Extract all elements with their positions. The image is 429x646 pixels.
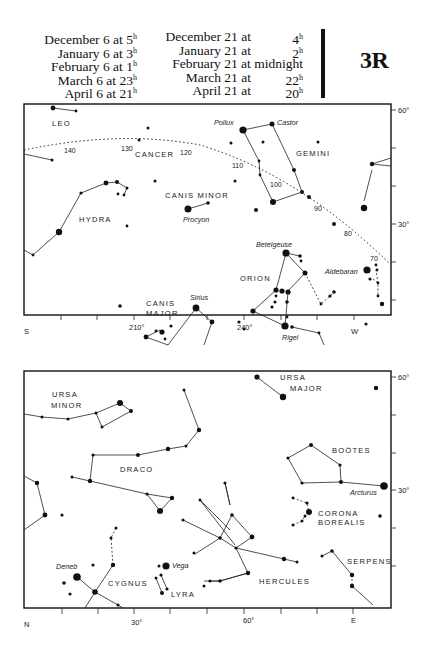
azimuth-ticks xyxy=(61,315,354,320)
time-row: February 6 at 1h xyxy=(0,57,137,71)
azimuth-label: 210° xyxy=(129,323,145,332)
svg-text:110: 110 xyxy=(232,162,243,169)
constellation-gemini: GEMINI xyxy=(296,149,330,158)
altitude-label: 30° xyxy=(398,220,409,229)
chart-frame xyxy=(24,104,391,315)
constellation-hercules: HERCULES xyxy=(259,577,310,586)
constellation-cygnus: CYGNUS xyxy=(108,579,148,588)
orion-arm xyxy=(305,273,334,304)
time-row: January 21 at2h xyxy=(160,44,303,58)
constellation-draco: DRACO xyxy=(120,465,153,474)
svg-text:120: 120 xyxy=(180,149,192,156)
azimuth-label: 240° xyxy=(237,323,253,332)
star-procyon: Procyon xyxy=(183,215,209,224)
time-row: April 21 at20h xyxy=(160,84,303,98)
constellation-leo: LEO xyxy=(52,119,71,128)
north-sky-chart: N E 30° 60° 60° 30° xyxy=(0,365,429,646)
azimuth-label: 30° xyxy=(131,618,142,627)
time-row: February 21 at midnight xyxy=(160,57,303,71)
star-sirius: Sirius xyxy=(190,293,208,302)
constellation-lyra: LYRA xyxy=(171,590,195,599)
time-row: March 6 at 23h xyxy=(0,71,137,85)
constellation-hydra: HYDRA xyxy=(79,215,112,224)
altitude-ticks xyxy=(391,377,396,566)
constellation-bootes: BOÖTES xyxy=(332,446,371,455)
direction-north: N xyxy=(24,620,29,629)
constellation-ursa-major: URSA xyxy=(280,373,306,382)
altitude-label: 60° xyxy=(398,106,409,115)
svg-text:80: 80 xyxy=(344,230,352,237)
altitude-label: 30° xyxy=(398,486,409,495)
svg-text:130: 130 xyxy=(121,145,133,152)
constellation-orion: ORION xyxy=(240,274,271,283)
svg-text:70: 70 xyxy=(370,255,378,262)
constellation-ursa-major: MAJOR xyxy=(290,384,323,393)
star-castor: Castor xyxy=(277,118,299,127)
direction-east: E xyxy=(351,616,356,625)
constellation-canis-minor: CANIS MINOR xyxy=(165,191,229,200)
constellation-corona-borealis: BOREALIS xyxy=(318,518,366,527)
azimuth-ticks xyxy=(62,608,353,614)
altitude-ticks xyxy=(391,110,396,300)
azimuth-label: 60° xyxy=(243,616,254,625)
direction-south: S xyxy=(24,327,29,336)
plate-id: 3R xyxy=(360,47,388,74)
star-aldebaran: Aldebaran xyxy=(324,267,358,276)
star-pollux: Pollux xyxy=(214,118,234,127)
cygnus-dash xyxy=(111,528,116,565)
time-row: April 6 at 21h xyxy=(0,84,137,98)
stars xyxy=(35,374,388,606)
star-deneb: Deneb xyxy=(56,562,77,571)
time-row: December 6 at 5h xyxy=(0,30,137,44)
svg-text:100: 100 xyxy=(270,181,282,188)
times-column-6th: December 6 at 5h January 6 at 3h Februar… xyxy=(0,30,137,98)
direction-west: W xyxy=(351,327,359,336)
constellation-canis-major: MAJOR xyxy=(146,309,179,318)
constellation-canis-major: CANIS xyxy=(146,299,175,308)
hyades-dash xyxy=(373,279,378,296)
constellation-lines xyxy=(24,108,391,345)
hyades-dash xyxy=(376,270,378,283)
time-row: March 21 at22h xyxy=(160,71,303,85)
star-vega: Vega xyxy=(172,561,189,570)
svg-text:140: 140 xyxy=(64,147,76,154)
times-column-21st: December 21 at4h January 21 at2h Februar… xyxy=(160,30,303,98)
star-arcturus: Arcturus xyxy=(349,488,377,497)
constellation-serpens: SERPENS xyxy=(347,557,392,566)
divider-bar xyxy=(321,29,325,98)
star-rigel: Rigel xyxy=(282,333,299,342)
time-row: December 21 at4h xyxy=(160,30,303,44)
star-betelgeuse: Betelgeuse xyxy=(256,240,292,249)
corona-dash xyxy=(293,498,309,512)
altitude-label: 60° xyxy=(398,373,409,382)
constellation-corona-borealis: CORONA xyxy=(318,509,359,518)
south-sky-chart: S W 210° 240° 60° 30° 140 130 120 110 10… xyxy=(0,100,429,365)
constellation-ursa-minor: MINOR xyxy=(51,401,82,410)
constellation-ursa-minor: URSA xyxy=(52,390,78,399)
svg-text:90: 90 xyxy=(314,205,322,212)
constellation-cancer: CANCER xyxy=(135,150,174,159)
ecliptic-labels: 140 130 120 110 100 90 80 70 xyxy=(64,145,378,262)
time-row: January 6 at 3h xyxy=(0,44,137,58)
